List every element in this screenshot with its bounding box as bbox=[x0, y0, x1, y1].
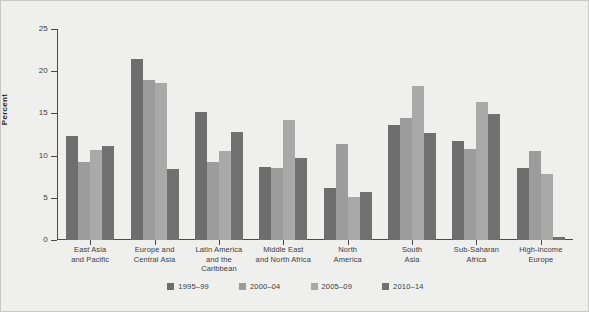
legend-item[interactable]: 2010–14 bbox=[382, 282, 424, 291]
bar-group-bars bbox=[66, 29, 114, 240]
bar-group bbox=[380, 29, 444, 240]
bar bbox=[464, 149, 476, 240]
legend-label: 1995–99 bbox=[178, 282, 209, 291]
bar bbox=[529, 151, 541, 240]
bar bbox=[476, 102, 488, 240]
bar bbox=[219, 151, 231, 240]
bar-group-bars bbox=[452, 29, 500, 240]
bar bbox=[78, 162, 90, 240]
y-axis-tick-label: 20 bbox=[1, 66, 48, 75]
x-axis-category-label: Europe and Central Asia bbox=[122, 245, 186, 274]
y-axis-tick-label: 5 bbox=[1, 193, 48, 202]
bar-group-bars bbox=[131, 29, 179, 240]
bar bbox=[283, 120, 295, 240]
bar bbox=[155, 83, 167, 240]
y-axis-tick-label: 10 bbox=[1, 151, 48, 160]
x-axis-category-labels: East Asia and PacificEurope and Central … bbox=[58, 245, 573, 274]
bar-group-bars bbox=[388, 29, 436, 240]
bar-group bbox=[251, 29, 315, 240]
x-axis-category-label: High-income Europe bbox=[509, 245, 573, 274]
bar bbox=[553, 237, 565, 240]
legend-item[interactable]: 1995–99 bbox=[167, 282, 209, 291]
x-axis-category-label: Latin America and the Caribbean bbox=[187, 245, 251, 274]
bar bbox=[271, 168, 283, 240]
bar bbox=[541, 174, 553, 240]
bar bbox=[324, 188, 336, 240]
bar bbox=[66, 136, 78, 240]
bar bbox=[195, 112, 207, 240]
legend-item[interactable]: 2000–04 bbox=[239, 282, 281, 291]
bar bbox=[488, 114, 500, 240]
y-axis-tick bbox=[51, 71, 57, 72]
legend-swatch-icon bbox=[167, 283, 174, 290]
chart-figure: Percent 0510152025 East Asia and Pacific… bbox=[0, 0, 589, 312]
bar bbox=[388, 125, 400, 240]
y-axis-tick bbox=[51, 156, 57, 157]
bar-group-bars bbox=[195, 29, 243, 240]
x-axis-category-label: South Asia bbox=[380, 245, 444, 274]
x-axis-category-label: Sub-Saharan Africa bbox=[444, 245, 508, 274]
bar bbox=[90, 150, 102, 240]
bar bbox=[452, 141, 464, 240]
y-axis-tick bbox=[51, 198, 57, 199]
bar bbox=[131, 59, 143, 240]
bar bbox=[336, 144, 348, 240]
bar bbox=[400, 118, 412, 240]
bar bbox=[231, 132, 243, 240]
bar bbox=[295, 158, 307, 240]
y-axis-tick-label: 15 bbox=[1, 108, 48, 117]
bar bbox=[424, 133, 436, 240]
bar-group bbox=[187, 29, 251, 240]
bar-group bbox=[316, 29, 380, 240]
bar bbox=[207, 162, 219, 240]
legend-swatch-icon bbox=[239, 283, 246, 290]
bar-group-bars bbox=[324, 29, 372, 240]
x-axis-category-label: Middle East and North Africa bbox=[251, 245, 315, 274]
bar bbox=[102, 146, 114, 240]
bar-group bbox=[122, 29, 186, 240]
legend-label: 2010–14 bbox=[393, 282, 424, 291]
bar-groups bbox=[58, 29, 573, 240]
legend-label: 2005–09 bbox=[322, 282, 353, 291]
legend-swatch-icon bbox=[311, 283, 318, 290]
legend-swatch-icon bbox=[382, 283, 389, 290]
y-axis-tick bbox=[51, 29, 57, 30]
chart-legend: 1995–992000–042005–092010–14 bbox=[1, 282, 589, 291]
bar bbox=[360, 192, 372, 240]
bar-group bbox=[444, 29, 508, 240]
bar bbox=[143, 80, 155, 240]
legend-item[interactable]: 2005–09 bbox=[311, 282, 353, 291]
bar bbox=[167, 169, 179, 240]
legend-label: 2000–04 bbox=[250, 282, 281, 291]
bar-group-bars bbox=[517, 29, 565, 240]
bar bbox=[348, 197, 360, 240]
x-axis-category-label: North America bbox=[316, 245, 380, 274]
bar-group bbox=[58, 29, 122, 240]
bar-group bbox=[509, 29, 573, 240]
bar bbox=[412, 86, 424, 240]
y-axis-tick bbox=[51, 240, 57, 241]
x-axis-category-label: East Asia and Pacific bbox=[58, 245, 122, 274]
y-axis-tick-label: 25 bbox=[1, 24, 48, 33]
bar bbox=[517, 168, 529, 240]
bar-group-bars bbox=[259, 29, 307, 240]
y-axis-tick-label: 0 bbox=[1, 235, 48, 244]
y-axis-tick bbox=[51, 113, 57, 114]
bar bbox=[259, 167, 271, 240]
